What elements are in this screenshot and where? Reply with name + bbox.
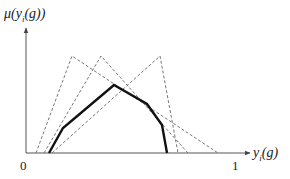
x-tick-one: 1 xyxy=(232,158,239,174)
aggregated-membership-curve xyxy=(49,85,167,153)
x-axis-label: yi(g) xyxy=(253,145,278,163)
dashed-triangle-3 xyxy=(52,56,178,153)
dashed-triangle-1 xyxy=(36,56,218,153)
y-axis-label: μ(yi(g)) xyxy=(4,6,45,24)
membership-function-diagram xyxy=(0,0,290,179)
dashed-triangle-2 xyxy=(44,56,188,153)
x-tick-zero: 0 xyxy=(20,158,27,174)
